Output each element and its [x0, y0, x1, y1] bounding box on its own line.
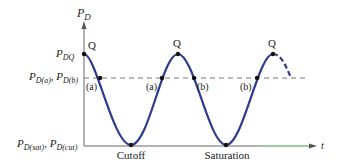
crossing-label-a: (a)	[146, 81, 157, 93]
peak-label-q: Q	[173, 37, 181, 49]
crossing-label-b: (b)	[197, 81, 209, 93]
peak-label-q: Q	[268, 37, 276, 49]
trough-label-cutoff: Cutoff	[117, 149, 146, 161]
trough-label-saturation: Saturation	[204, 149, 250, 161]
crossing-point	[192, 76, 196, 80]
q-point	[176, 52, 180, 56]
y-axis-label: PD	[76, 6, 91, 22]
q-point	[82, 52, 86, 56]
power-waveform-diagram: PD t PDQ PD(a), PD(b) PD(sat), PD(cut) Q…	[0, 0, 339, 166]
crossing-point	[255, 76, 259, 80]
waveform-dashed-continuation	[273, 54, 291, 78]
crossing-label-a: (a)	[86, 81, 97, 93]
trough-point	[129, 143, 133, 147]
y-axis-arrow-icon	[82, 21, 87, 29]
peak-label-q: Q	[88, 39, 96, 51]
crossing-label-b: (b)	[240, 81, 252, 93]
y-tick-pda-pdb: PD(a), PD(b)	[28, 70, 79, 85]
waveform-curve	[84, 54, 273, 145]
x-axis-label: t	[321, 140, 324, 151]
crossing-point	[160, 76, 164, 80]
crossing-point	[98, 76, 102, 80]
q-point	[271, 52, 275, 56]
x-axis-arrow-icon	[309, 144, 317, 149]
y-tick-psat-pcut: PD(sat), PD(cut)	[16, 137, 78, 152]
trough-point	[224, 143, 228, 147]
y-tick-pdq: PDQ	[55, 47, 75, 62]
